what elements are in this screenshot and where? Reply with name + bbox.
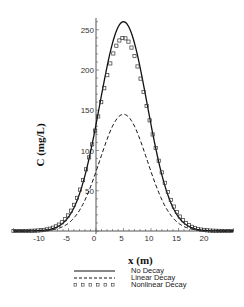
y-tick-label: 100	[81, 147, 95, 156]
legend: No DecayLinear DecayNonlinear Decay	[74, 266, 187, 289]
x-tick-label: 0	[92, 234, 97, 243]
series-linear-decay	[14, 114, 234, 231]
axes: -10-50510152050100150200250	[14, 18, 234, 243]
legend-swatch-squares	[82, 284, 85, 287]
legend-swatch-squares	[89, 284, 92, 287]
legend-swatch-squares	[97, 284, 100, 287]
legend-swatch-squares	[104, 284, 107, 287]
x-tick-label: -5	[63, 234, 71, 243]
y-tick-label: 200	[81, 66, 95, 75]
y-tick-label: 250	[81, 26, 95, 35]
x-tick-label: 5	[119, 234, 124, 243]
y-tick-label: 150	[81, 106, 95, 115]
y-axis-label: C (mg/L)	[34, 123, 47, 166]
x-tick-label: 10	[145, 234, 154, 243]
legend-swatch-squares	[74, 284, 77, 287]
legend-label: Nonlinear Decay	[131, 280, 187, 289]
x-tick-label: -10	[33, 234, 45, 243]
concentration-chart: -10-50510152050100150200250 C (mg/L) x (…	[0, 0, 244, 307]
x-tick-label: 20	[200, 234, 209, 243]
legend-swatch-squares	[112, 284, 115, 287]
series-no-decay	[14, 22, 234, 231]
x-tick-label: 15	[172, 234, 181, 243]
